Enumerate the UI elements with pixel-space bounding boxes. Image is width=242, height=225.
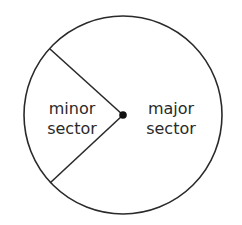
minor-sector-label-line1: minor (49, 99, 96, 118)
center-point (119, 111, 127, 119)
sector-diagram: minor sector major sector (0, 0, 242, 225)
major-sector-label-line2: sector (146, 119, 196, 138)
major-sector-label-line1: major (148, 99, 195, 118)
minor-sector-label-line2: sector (47, 119, 97, 138)
